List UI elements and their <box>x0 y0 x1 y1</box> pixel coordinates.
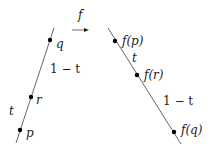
point-r <box>29 95 33 99</box>
point-q <box>48 38 52 42</box>
label-p: p <box>26 126 34 140</box>
label-right-1-minus-t: 1 − t <box>163 94 193 108</box>
label-q: q <box>56 37 64 51</box>
label-f: f <box>77 8 85 22</box>
label-right-t: t <box>132 51 137 65</box>
point-fr <box>135 73 139 77</box>
label-r: r <box>36 93 43 107</box>
diagram: q r p 1 − t t f f(p) f(r) f(q) t 1 − t <box>0 0 212 152</box>
label-fr: f(r) <box>143 68 164 82</box>
label-left-t: t <box>9 104 14 118</box>
point-fq <box>172 130 176 134</box>
left-line <box>16 28 54 143</box>
label-fp: f(p) <box>121 34 144 48</box>
arrowhead-icon <box>84 28 89 32</box>
point-fp <box>113 39 117 43</box>
right-line <box>108 28 181 144</box>
diagram-svg: q r p 1 − t t f f(p) f(r) f(q) t 1 − t <box>0 0 212 152</box>
label-fq: f(q) <box>180 123 203 137</box>
label-left-1-minus-t: 1 − t <box>50 62 80 76</box>
point-p <box>18 128 22 132</box>
